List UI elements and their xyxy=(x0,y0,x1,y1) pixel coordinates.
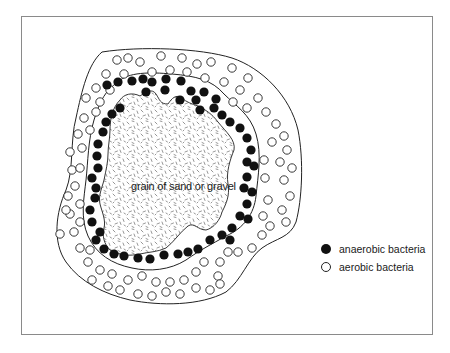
anaerobic-bacterium xyxy=(98,127,107,136)
anaerobic-bacterium xyxy=(217,110,226,119)
anaerobic-bacterium xyxy=(225,235,234,244)
aerobic-bacterium xyxy=(280,176,288,184)
anaerobic-bacterium xyxy=(90,193,99,202)
aerobic-bacterium xyxy=(228,64,236,72)
anaerobic-bacterium xyxy=(235,211,244,220)
aerobic-bacterium xyxy=(254,94,262,102)
aerobic-bacterium xyxy=(166,278,174,286)
aerobic-bacterium xyxy=(280,132,288,140)
aerobic-bacterium xyxy=(286,192,294,200)
aerobic-bacterium xyxy=(113,56,121,64)
aerobic-bacterium xyxy=(68,166,76,174)
aerobic-bacterium xyxy=(234,248,242,256)
filled-circle-icon xyxy=(321,244,331,254)
anaerobic-bacterium xyxy=(242,172,251,181)
aerobic-bacterium xyxy=(138,272,146,280)
aerobic-bacterium xyxy=(288,164,296,172)
anaerobic-bacterium xyxy=(102,80,111,89)
anaerobic-bacterium xyxy=(173,249,182,258)
anaerobic-bacterium xyxy=(176,76,185,85)
aerobic-bacterium xyxy=(124,276,132,284)
aerobic-bacterium xyxy=(157,52,165,60)
anaerobic-bacterium xyxy=(235,123,244,132)
anaerobic-bacterium xyxy=(145,254,154,263)
anaerobic-bacterium xyxy=(183,247,192,256)
legend-item-anaerobic: anaerobic bacteria xyxy=(320,240,425,258)
aerobic-bacterium xyxy=(266,222,274,230)
anaerobic-bacterium xyxy=(186,86,195,95)
biofilm-diagram xyxy=(0,0,450,353)
aerobic-bacterium xyxy=(104,282,112,290)
aerobic-bacterium xyxy=(278,206,286,214)
aerobic-bacterium xyxy=(66,148,74,156)
anaerobic-bacterium xyxy=(93,139,102,148)
aerobic-bacterium xyxy=(74,130,82,138)
aerobic-bacterium xyxy=(136,58,144,66)
grain-label: grain of sand or gravel xyxy=(131,180,236,192)
aerobic-bacterium xyxy=(76,164,84,172)
aerobic-bacterium xyxy=(96,266,104,274)
aerobic-bacterium xyxy=(152,278,160,286)
anaerobic-bacterium xyxy=(246,145,255,154)
legend: anaerobic bacteria aerobic bacteria xyxy=(320,240,425,276)
anaerobic-bacterium xyxy=(85,205,94,214)
anaerobic-bacterium xyxy=(99,244,108,253)
aerobic-bacterium xyxy=(243,104,251,112)
aerobic-bacterium xyxy=(76,218,84,226)
aerobic-bacterium xyxy=(92,108,100,116)
aerobic-bacterium xyxy=(108,270,116,278)
anaerobic-bacterium xyxy=(243,214,252,223)
aerobic-bacterium xyxy=(260,156,268,164)
anaerobic-bacterium xyxy=(101,117,110,126)
anaerobic-bacterium xyxy=(191,95,200,104)
aerobic-bacterium xyxy=(96,98,104,106)
aerobic-bacterium xyxy=(262,108,270,116)
anaerobic-bacterium xyxy=(217,230,226,239)
anaerobic-bacterium xyxy=(119,251,128,260)
aerobic-bacterium xyxy=(64,192,72,200)
anaerobic-bacterium xyxy=(91,235,100,244)
aerobic-bacterium xyxy=(102,70,110,78)
anaerobic-bacterium xyxy=(242,133,251,142)
aerobic-bacterium xyxy=(76,200,84,208)
aerobic-bacterium xyxy=(78,144,86,152)
anaerobic-bacterium xyxy=(193,244,202,253)
anaerobic-bacterium xyxy=(175,95,184,104)
aerobic-bacterium xyxy=(261,174,269,182)
anaerobic-bacterium xyxy=(109,249,118,258)
aerobic-bacterium xyxy=(248,244,256,252)
aerobic-bacterium xyxy=(220,78,228,86)
aerobic-bacterium xyxy=(92,84,100,92)
aerobic-bacterium xyxy=(201,74,209,82)
aerobic-bacterium xyxy=(192,268,200,276)
aerobic-bacterium xyxy=(236,86,244,94)
anaerobic-bacterium xyxy=(195,105,204,114)
anaerobic-bacterium xyxy=(205,235,214,244)
aerobic-bacterium xyxy=(166,66,174,74)
anaerobic-bacterium xyxy=(92,151,101,160)
anaerobic-bacterium xyxy=(209,103,218,112)
aerobic-bacterium xyxy=(84,258,92,266)
aerobic-bacterium xyxy=(214,272,222,280)
aerobic-bacterium xyxy=(206,286,214,294)
aerobic-bacterium xyxy=(120,70,128,78)
aerobic-bacterium xyxy=(86,126,94,134)
aerobic-bacterium xyxy=(224,248,232,256)
anaerobic-bacterium xyxy=(225,117,234,126)
anaerobic-bacterium xyxy=(242,199,251,208)
aerobic-bacterium xyxy=(282,218,290,226)
anaerobic-bacterium xyxy=(113,77,122,86)
legend-label: aerobic bacteria xyxy=(339,261,414,273)
aerobic-bacterium xyxy=(283,146,291,154)
aerobic-bacterium xyxy=(193,60,201,68)
anaerobic-bacterium xyxy=(138,74,147,83)
open-circle-icon xyxy=(321,262,331,272)
anaerobic-bacterium xyxy=(239,183,248,192)
aerobic-bacterium xyxy=(200,258,208,266)
anaerobic-bacterium xyxy=(133,253,142,262)
aerobic-bacterium xyxy=(70,228,78,236)
anaerobic-bacterium xyxy=(211,94,220,103)
aerobic-bacterium xyxy=(183,68,191,76)
aerobic-bacterium xyxy=(134,290,142,298)
aerobic-bacterium xyxy=(88,276,96,284)
